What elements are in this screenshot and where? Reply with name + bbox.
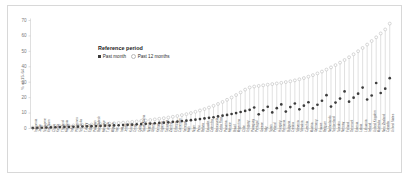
data-point-past-12-months: [208, 106, 211, 109]
data-point-past-12-months: [185, 113, 188, 116]
data-point-past-12-months: [302, 77, 305, 80]
x-axis-category-label: Jordan: [124, 123, 128, 132]
x-axis-category-label: Bolivia: [201, 123, 205, 132]
data-point-past-12-months: [289, 80, 292, 83]
x-axis-category-label: France: [319, 123, 323, 132]
data-point-past-12-months: [370, 40, 373, 43]
x-axis-category-label: Turkey: [84, 123, 88, 132]
x-axis-category-label: United States: [391, 114, 395, 132]
data-point-past-month: [361, 86, 364, 89]
x-axis-category-label: Portugal: [255, 121, 259, 132]
x-axis-category-label: Belgium: [323, 121, 327, 132]
data-point-past-12-months: [230, 96, 233, 99]
data-point-past-12-months: [321, 70, 324, 73]
y-axis-tick-label: 10: [13, 110, 27, 115]
data-point-past-month: [266, 105, 269, 108]
data-point-past-12-months: [311, 74, 314, 77]
data-point-past-month: [343, 90, 346, 93]
data-point-past-12-months: [266, 83, 269, 86]
data-point-past-month: [339, 97, 342, 100]
data-point-past-12-months: [339, 61, 342, 64]
data-point-past-12-months: [275, 82, 278, 85]
x-axis-category-label: Latvia: [359, 124, 363, 132]
data-point-past-month: [293, 102, 296, 105]
data-point-past-month: [280, 103, 283, 106]
data-point-past-12-months: [221, 101, 224, 104]
data-point-past-12-months: [384, 28, 387, 31]
data-point-past-month: [284, 110, 287, 113]
data-point-past-12-months: [217, 103, 220, 106]
data-point-past-12-months: [352, 53, 355, 56]
data-point-past-12-months: [153, 118, 156, 121]
x-axis-category-label: Austria: [310, 123, 314, 132]
data-point-past-month: [348, 100, 351, 103]
data-point-past-month: [203, 117, 206, 120]
data-point-past-12-months: [248, 86, 251, 89]
y-axis-tick-label: 60: [13, 33, 27, 38]
x-axis-category-label: Zambia: [169, 122, 173, 132]
data-point-past-12-months: [348, 56, 351, 59]
x-axis-category-label: Iran: [115, 127, 119, 132]
data-point-past-month: [312, 107, 315, 110]
data-point-past-month: [257, 113, 260, 116]
x-axis-category-label: Egypt: [88, 124, 92, 132]
data-point-past-month: [226, 114, 229, 117]
x-axis-category-label: Uruguay: [246, 120, 250, 132]
data-point-past-month: [199, 118, 202, 121]
x-axis-category-label: Mexico: [228, 122, 232, 132]
x-axis-category-label: Cameroon: [178, 118, 182, 132]
data-point-past-12-months: [235, 94, 238, 97]
x-axis-category-label: Malaysia: [65, 120, 69, 132]
data-point-past-12-months: [167, 116, 170, 119]
x-axis-category-label: Bangladesh: [97, 116, 101, 132]
legend-entries: Past monthPast 12 months: [98, 54, 170, 59]
x-axis-category-label: Korea: [56, 124, 60, 132]
x-axis-category-label: Ireland: [368, 123, 372, 132]
data-point-past-12-months: [361, 47, 364, 50]
data-point-past-12-months: [298, 78, 301, 81]
y-axis-tick-label: 50: [13, 49, 27, 54]
x-axis-category-label: Sri Lanka: [79, 119, 83, 132]
data-point-past-month: [366, 98, 369, 101]
x-axis-category-label: Argentina: [237, 119, 241, 132]
x-axis-category-label: Philippines: [75, 117, 79, 132]
y-axis-tick-label: 20: [13, 95, 27, 100]
y-axis-tick-label: 0: [13, 126, 27, 131]
data-point-past-month: [303, 104, 306, 107]
data-point-past-12-months: [244, 88, 247, 91]
data-point-past-month: [375, 82, 378, 85]
data-point-past-month: [235, 112, 238, 115]
y-axis-tick-label: 70: [13, 18, 27, 23]
data-point-past-month: [325, 94, 328, 97]
data-point-past-12-months: [325, 68, 328, 71]
data-point-past-12-months: [135, 120, 138, 123]
data-point-past-12-months: [316, 72, 319, 75]
data-point-past-12-months: [271, 83, 274, 86]
data-point-past-month: [244, 110, 247, 113]
legend-title: Reference period: [98, 45, 170, 51]
data-point-past-month: [370, 94, 373, 97]
x-axis-category-label: India: [70, 125, 74, 132]
x-axis-category-label: Italy: [264, 126, 268, 132]
data-point-past-month: [253, 106, 256, 109]
data-point-past-12-months: [199, 109, 202, 112]
x-axis-category-label: Oman: [133, 124, 137, 132]
data-point-past-12-months: [257, 84, 260, 87]
data-point-past-month: [379, 92, 382, 95]
x-axis-category-label: Tunisia: [106, 122, 110, 132]
data-point-past-month: [334, 101, 337, 104]
data-point-past-12-months: [212, 104, 215, 107]
data-point-past-12-months: [189, 112, 192, 115]
x-axis-category-label: Peru: [197, 126, 201, 132]
data-point-past-month: [271, 111, 274, 114]
x-axis-category-label: Czechia: [305, 121, 309, 132]
data-point-past-month: [307, 101, 310, 104]
data-point-past-12-months: [388, 22, 391, 25]
x-axis-category-label: Poland: [273, 123, 277, 133]
legend-swatch-past-12-months: [131, 54, 136, 59]
x-axis-category-label: Australia: [377, 120, 381, 132]
chart-legend: Reference period Past monthPast 12 month…: [98, 45, 170, 59]
data-point-past-month: [239, 111, 242, 114]
legend-label-past-12-months: Past 12 months: [138, 54, 170, 59]
data-point-past-month: [352, 96, 355, 99]
